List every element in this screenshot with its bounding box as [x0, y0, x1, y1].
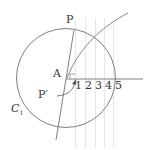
label-c-subscript: 1 — [19, 109, 23, 116]
line-pa — [56, 30, 74, 140]
tick-1: 1 — [75, 80, 85, 91]
curve — [67, 13, 128, 78]
tick-2: 2 — [85, 80, 95, 91]
geometry-figure — [0, 0, 152, 150]
tick-4: 4 — [105, 80, 115, 91]
label-a: A — [53, 68, 61, 79]
label-p: P — [66, 14, 73, 25]
tick-labels: 12345 — [75, 80, 125, 91]
tick-3: 3 — [95, 80, 105, 91]
rotation-arc — [57, 81, 75, 96]
label-p-prime: P′ — [38, 89, 48, 100]
tick-5: 5 — [115, 80, 125, 91]
label-c1: C1 — [11, 103, 23, 116]
